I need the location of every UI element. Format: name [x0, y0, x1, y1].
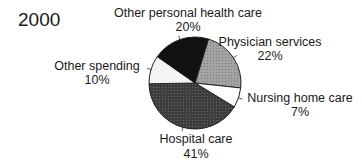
slice-value-label: 20% — [175, 20, 200, 34]
slice-label: Other spending — [54, 59, 140, 73]
chart-title: 2000 — [18, 9, 60, 30]
slice-label: Nursing home care — [247, 91, 353, 105]
pie-chart: 2000 Physician services22%Nursing home c… — [0, 0, 362, 167]
slice-label: Hospital care — [160, 132, 233, 146]
pie-slices — [149, 37, 241, 129]
slice-value-label: 7% — [291, 105, 309, 119]
slice-value-label: 10% — [84, 73, 109, 87]
slice-value-label: 41% — [183, 147, 208, 161]
slice-label: Other personal health care — [114, 6, 262, 20]
slice-label: Physician services — [219, 35, 322, 49]
slice-value-label: 22% — [257, 49, 282, 63]
